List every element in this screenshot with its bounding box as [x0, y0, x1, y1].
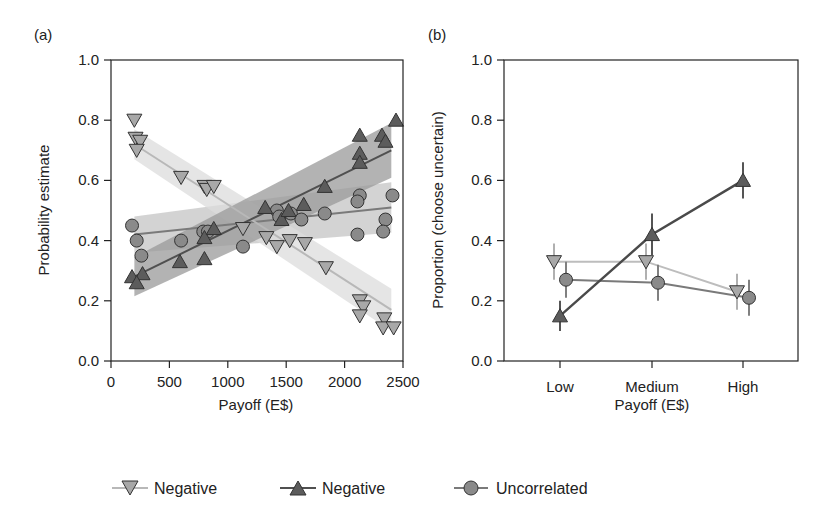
circle-marker [130, 234, 143, 247]
figure: (a) 0.00.20.40.60.81.0 05001000150020002… [0, 0, 832, 524]
legend-item-uncorrelated: Uncorrelated [454, 480, 588, 497]
panel-a-label: (a) [34, 26, 52, 43]
y-axis-a: 0.00.20.40.60.81.0 [78, 51, 111, 369]
y-tick-label: 1.0 [78, 51, 99, 68]
legend-label: Negative [154, 480, 217, 497]
y-tick-label: 0.8 [78, 111, 99, 128]
x-tick-label: 500 [157, 373, 182, 390]
circle-marker [377, 225, 390, 238]
panel-b-line: (b) 0.00.20.40.60.81.0 LowMediumHigh Pay… [428, 26, 798, 413]
circle-marker [743, 291, 756, 304]
circle-marker [318, 207, 331, 220]
triangle-up-marker [388, 113, 403, 126]
x-axis-a: 05001000150020002500 [107, 361, 420, 390]
triangle-down-marker [127, 114, 142, 127]
triangle-up-marker [645, 227, 660, 240]
y-axis-title-b: Proportion (choose uncertain) [429, 111, 446, 309]
circle-marker [126, 219, 139, 232]
circle-icon [464, 481, 478, 495]
x-tick-label: 1000 [211, 373, 244, 390]
x-tick-label: High [728, 378, 759, 395]
series-lines [547, 162, 756, 331]
triangle-down-marker [352, 310, 367, 323]
y-tick-label: 0.2 [78, 292, 99, 309]
circle-marker [652, 276, 665, 289]
triangle-up-marker [352, 128, 367, 141]
circle-marker [135, 249, 148, 262]
circle-marker [175, 234, 188, 247]
x-tick-label: Low [546, 378, 574, 395]
y-tick-label: 1.0 [471, 51, 492, 68]
y-tick-label: 0.4 [78, 232, 99, 249]
legend: Negative Negative Uncorrelated [112, 480, 588, 497]
x-tick-label: 2500 [386, 373, 419, 390]
plot-frame-b [504, 60, 798, 361]
legend-item-negative-up: Negative [280, 480, 385, 497]
y-axis-b: 0.00.20.40.60.81.0 [471, 51, 504, 369]
y-tick-label: 0.2 [471, 292, 492, 309]
y-tick-label: 0.6 [471, 171, 492, 188]
x-tick-label: 2000 [328, 373, 361, 390]
circle-marker [351, 228, 364, 241]
circle-marker [560, 273, 573, 286]
x-tick-label: 1500 [270, 373, 303, 390]
y-tick-label: 0.4 [471, 232, 492, 249]
y-tick-label: 0.8 [471, 111, 492, 128]
circle-marker [236, 240, 249, 253]
circle-marker [386, 189, 399, 202]
x-tick-label: Medium [625, 378, 678, 395]
panel-b-label: (b) [428, 26, 446, 43]
legend-label: Negative [322, 480, 385, 497]
y-tick-label: 0.6 [78, 171, 99, 188]
panel-a-scatter: (a) 0.00.20.40.60.81.0 05001000150020002… [34, 26, 420, 413]
x-tick-label: 0 [107, 373, 115, 390]
x-axis-b: LowMediumHigh [546, 361, 758, 395]
x-axis-title-b: Payoff (E$) [615, 396, 690, 413]
legend-label: Uncorrelated [496, 480, 588, 497]
x-axis-title-a: Payoff (E$) [219, 396, 294, 413]
circle-marker [379, 213, 392, 226]
y-axis-title-a: Probability estimate [35, 145, 52, 276]
y-tick-label: 0.0 [471, 352, 492, 369]
circle-marker [351, 195, 364, 208]
circle-marker [295, 213, 308, 226]
legend-item-negative-down: Negative [112, 480, 217, 497]
triangle-up-marker [736, 173, 751, 186]
y-tick-label: 0.0 [78, 352, 99, 369]
